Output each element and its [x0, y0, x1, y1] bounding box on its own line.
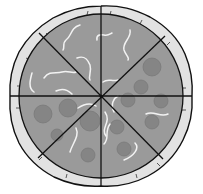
pepperoni-slice — [110, 120, 124, 134]
pizza-center — [100, 95, 103, 98]
pepperoni-slice — [143, 58, 161, 76]
pizza-graphic — [0, 0, 203, 194]
pepperoni-slice — [134, 80, 148, 94]
pizza-illustration — [0, 0, 203, 194]
pepperoni-slice — [117, 142, 131, 156]
pepperoni-slice — [145, 115, 159, 129]
pepperoni-slice — [81, 148, 95, 162]
pepperoni-slice — [59, 99, 77, 117]
pepperoni-slice — [121, 93, 135, 107]
pepperoni-slice — [34, 105, 52, 123]
